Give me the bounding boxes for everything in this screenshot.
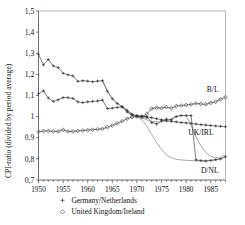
data-point-marker-plus	[175, 120, 178, 123]
series-annotation-b-l: B/L	[207, 85, 219, 94]
series-line-d-nl	[39, 91, 226, 161]
legend-marker-plus	[61, 198, 65, 202]
data-point-marker-plus	[214, 158, 217, 161]
y-tick-label: 0,7	[25, 176, 35, 185]
x-tick-label: 1980	[179, 185, 194, 194]
data-point-marker-plus	[57, 98, 60, 101]
x-axis-ticks: 19501955196019651970197519801985	[31, 180, 225, 194]
y-tick-label: 1,2	[25, 70, 35, 79]
data-point-marker-plus	[116, 106, 119, 109]
y-tick-label: 0,9	[25, 133, 35, 142]
chart-legend: Germany/NetherlandsUnited Kingdom/Irelan…	[60, 196, 144, 217]
data-point-marker-plus	[96, 99, 99, 102]
series-markers	[37, 53, 228, 163]
data-point-marker-plus	[155, 117, 158, 120]
data-point-marker-plus	[219, 125, 222, 128]
data-point-marker-plus	[101, 99, 104, 102]
data-point-marker-plus	[224, 125, 227, 128]
y-tick-label: 1,5	[25, 7, 35, 16]
data-point-marker-plus	[37, 92, 40, 95]
data-point-marker-plus	[150, 116, 153, 119]
data-point-marker-plus	[199, 123, 202, 126]
data-point-marker-plus	[62, 96, 65, 99]
data-point-marker-plus	[185, 114, 188, 117]
y-tick-label: 1	[31, 112, 35, 121]
x-tick-label: 1950	[31, 185, 46, 194]
data-point-marker-plus	[204, 159, 207, 162]
legend-label: United Kingdom/Ireland	[72, 207, 145, 216]
data-point-marker-plus	[224, 155, 227, 158]
data-point-marker-plus	[165, 118, 168, 121]
x-tick-label: 1960	[80, 185, 95, 194]
x-tick-label: 1965	[105, 185, 120, 194]
data-point-marker-plus	[91, 80, 94, 83]
data-point-marker-plus	[67, 73, 70, 76]
data-point-marker-plus	[199, 159, 202, 162]
data-point-marker-plus	[81, 101, 84, 104]
y-tick-label: 1,3	[25, 49, 35, 58]
data-point-marker-plus	[209, 124, 212, 127]
data-point-marker-plus	[86, 80, 89, 83]
data-point-marker-plus	[170, 118, 173, 121]
data-point-marker-plus	[96, 80, 99, 83]
data-point-marker-plus	[194, 123, 197, 126]
data-point-marker-plus	[106, 107, 109, 110]
data-point-marker-plus	[101, 79, 104, 82]
y-tick-label: 1,4	[25, 28, 35, 37]
chart-canvas: 0,70,80,911,11,21,31,41,5 19501955196019…	[0, 0, 245, 225]
data-point-marker-plus	[81, 79, 84, 82]
data-point-marker-plus	[180, 114, 183, 117]
legend-label: Germany/Netherlands	[72, 196, 137, 205]
data-point-marker-plus	[111, 107, 114, 110]
data-point-marker-plus	[155, 123, 158, 126]
series-annotation-d-nl: D/NL	[201, 166, 219, 175]
data-point-marker-plus	[67, 96, 70, 99]
legend-marker-diamond	[60, 210, 64, 214]
series-annotation-uk-irl: UK/IRL	[188, 128, 214, 137]
data-point-marker-plus	[91, 100, 94, 103]
data-point-marker-plus	[209, 159, 212, 162]
data-point-marker-plus	[175, 115, 178, 118]
data-point-marker-plus	[214, 124, 217, 127]
data-point-marker-plus	[185, 121, 188, 124]
data-point-marker-plus	[86, 100, 89, 103]
x-tick-label: 1985	[203, 185, 218, 194]
x-tick-label: 1975	[154, 185, 169, 194]
series-lines	[39, 54, 226, 161]
data-point-marker-plus	[190, 114, 193, 117]
y-tick-label: 0,8	[25, 155, 35, 164]
y-tick-label: 1,1	[25, 91, 35, 100]
y-axis-title: CPI-ratio (divided by period average)	[4, 63, 13, 178]
plot-frame	[39, 11, 226, 180]
data-point-marker-plus	[180, 121, 183, 124]
cpi-ratio-chart: 0,70,80,911,11,21,31,41,5 19501955196019…	[0, 0, 245, 225]
x-tick-label: 1955	[56, 185, 71, 194]
data-point-marker-plus	[204, 124, 207, 127]
y-axis-ticks: 0,70,80,911,11,21,31,41,5	[25, 7, 39, 185]
x-tick-label: 1970	[130, 185, 145, 194]
